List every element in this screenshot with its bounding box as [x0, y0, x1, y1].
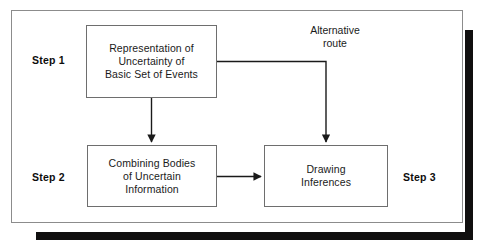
diagram-canvas: Representation of Uncertainty of Basic S…: [0, 0, 485, 242]
process-node-step1[interactable]: Representation of Uncertainty of Basic S…: [86, 25, 217, 98]
step-label-2: Step 2: [32, 171, 65, 183]
process-node-step2-text: Combining Bodies of Uncertain Informatio…: [109, 157, 196, 196]
step-label-1: Step 1: [32, 54, 65, 66]
step-label-3: Step 3: [403, 171, 436, 183]
process-node-step2[interactable]: Combining Bodies of Uncertain Informatio…: [87, 145, 217, 207]
alternative-route-label: Alternative route: [288, 24, 382, 50]
process-node-step3-text: Drawing Inferences: [301, 163, 351, 189]
process-node-step3[interactable]: Drawing Inferences: [264, 145, 388, 207]
node-layer: Representation of Uncertainty of Basic S…: [0, 0, 485, 242]
diagram-frame: Representation of Uncertainty of Basic S…: [11, 10, 463, 223]
process-node-step1-text: Representation of Uncertainty of Basic S…: [105, 42, 198, 81]
